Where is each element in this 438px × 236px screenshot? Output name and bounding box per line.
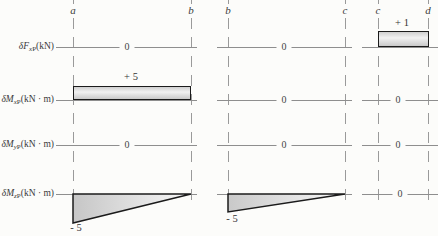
node-label-c1: c xyxy=(343,4,348,16)
node-label-a: a xyxy=(70,4,76,16)
value-label-minus5-bc: - 5 xyxy=(226,213,237,224)
node-label-b2: b xyxy=(225,4,231,16)
row-label-moment-z: δMzP(kN · m) xyxy=(0,187,54,203)
baseline-r1-p3 xyxy=(362,47,438,48)
zero-value-p2-r1: 0 xyxy=(277,41,292,53)
dashed-gridline-a xyxy=(73,18,74,202)
row-unit: (kN · m) xyxy=(21,188,54,198)
zero-value-p1-r1: 0 xyxy=(120,41,135,53)
row-symbol: δM xyxy=(1,139,13,149)
value-label-minus5-ab: - 5 xyxy=(70,222,81,233)
node-label-b1: b xyxy=(188,4,194,16)
node-label-c2: c xyxy=(376,4,381,16)
zero-value-p3-r2: 0 xyxy=(391,94,406,106)
zero-value-p2-r2: 0 xyxy=(277,94,292,106)
value-label-plus1: + 1 xyxy=(395,17,409,28)
row-unit: (kN) xyxy=(36,41,54,51)
value-label-plus5: + 5 xyxy=(124,71,138,82)
node-label-d: d xyxy=(425,4,431,16)
zero-value-p3-r4: 0 xyxy=(393,188,408,200)
dashed-gridline-c1 xyxy=(345,18,346,202)
row-symbol: δM xyxy=(1,94,13,104)
row-label-moment-x: δMxP(kN · m) xyxy=(0,93,54,109)
dashed-gridline-b1 xyxy=(191,18,192,202)
row-symbol: δM xyxy=(2,188,14,198)
zero-value-p1-r3: 0 xyxy=(120,139,135,151)
moment-triangle-bc xyxy=(227,193,347,216)
moment-triangle-ab xyxy=(72,193,193,226)
dashed-gridline-b2 xyxy=(228,18,229,202)
row-unit: (kN · m) xyxy=(21,94,54,104)
moment-rect-plus5 xyxy=(73,86,191,100)
row-symbol: δF xyxy=(19,41,29,51)
zero-value-p3-r3: 0 xyxy=(391,139,406,151)
row-label-moment-y: δMyP(kN · m) xyxy=(0,138,54,154)
row-label-shear-force: δFxP(kN) xyxy=(0,40,54,56)
internal-force-diagrams-figure: a b b c c d δFxP(kN) δMxP(kN · m) δMyP(k… xyxy=(0,0,438,236)
zero-value-p2-r3: 0 xyxy=(277,139,292,151)
row-unit: (kN · m) xyxy=(21,139,54,149)
baseline-r2-p1 xyxy=(56,100,197,101)
moment-rect-plus1 xyxy=(378,31,429,47)
